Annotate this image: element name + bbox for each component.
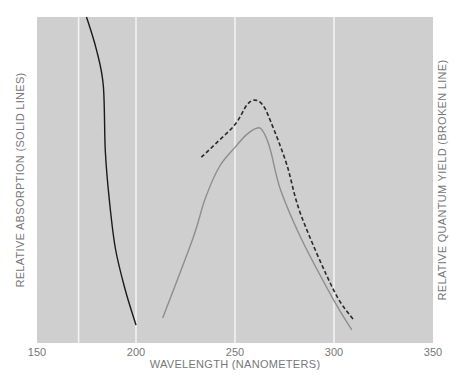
x-tick-label: 350 (424, 346, 442, 358)
y-axis-title-right: RELATIVE QUANTUM YIELD (BROKEN LINE) (436, 60, 448, 301)
x-tick-label: 200 (127, 346, 145, 358)
x-tick-label: 250 (226, 346, 244, 358)
y-axis-title-left: RELATIVE ABSORPTION (SOLID LINES) (14, 72, 26, 287)
x-axis-tick-labels: 150200250300350 (28, 346, 442, 358)
x-tick-label: 150 (28, 346, 46, 358)
x-axis-title: WAVELENGTH (NANOMETERS) (150, 358, 321, 370)
chart: 150200250300350 WAVELENGTH (NANOMETERS) … (0, 0, 459, 383)
x-tick-label: 300 (325, 346, 343, 358)
